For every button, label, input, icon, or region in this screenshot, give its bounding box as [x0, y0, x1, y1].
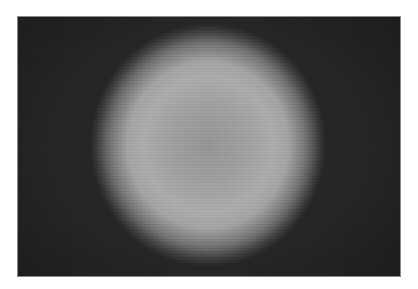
photo-frame	[18, 17, 400, 276]
film-grain	[18, 17, 400, 276]
